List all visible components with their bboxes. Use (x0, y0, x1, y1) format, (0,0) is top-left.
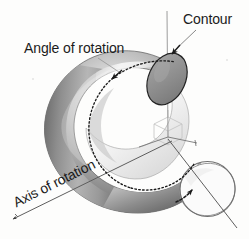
label-angle-of-rotation: Angle of rotation (24, 41, 124, 55)
label-contour: Contour (183, 12, 232, 26)
axis-right-tick (195, 140, 196, 146)
figure-canvas: Contour Angle of rotation Axis of rotati… (0, 0, 249, 239)
contour-leader-arrowhead (172, 45, 180, 54)
torus-diagram-svg (0, 0, 249, 239)
scan-speckle (32, 78, 34, 80)
scan-speckle (226, 59, 228, 61)
axis-label-tick (15, 214, 18, 217)
